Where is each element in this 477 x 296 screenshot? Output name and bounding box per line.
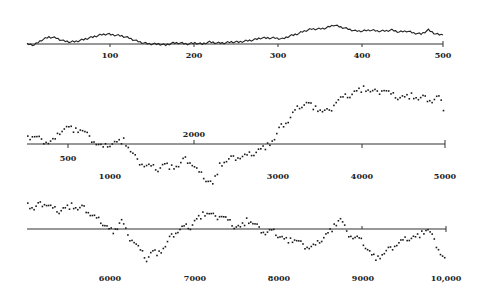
data-point xyxy=(150,252,152,254)
data-point xyxy=(253,155,255,157)
data-point xyxy=(106,225,108,227)
data-point xyxy=(267,231,269,233)
data-point xyxy=(152,250,154,252)
data-point xyxy=(171,233,173,235)
data-point xyxy=(273,229,275,231)
data-point xyxy=(165,246,167,248)
data-point xyxy=(438,249,440,251)
data-point xyxy=(377,90,379,92)
data-point xyxy=(169,168,171,170)
data-point xyxy=(176,166,178,168)
data-point xyxy=(315,244,317,246)
data-point xyxy=(254,223,256,225)
data-point xyxy=(313,109,315,111)
data-point xyxy=(105,143,107,145)
data-point xyxy=(155,169,157,171)
data-point xyxy=(198,171,200,173)
tick-label: 300 xyxy=(270,50,287,60)
data-point xyxy=(221,165,223,167)
data-point xyxy=(429,100,431,102)
data-point xyxy=(271,140,273,142)
data-point xyxy=(44,204,46,206)
data-point xyxy=(356,236,358,238)
data-point xyxy=(283,126,285,128)
data-point xyxy=(342,96,344,98)
data-point xyxy=(323,237,325,239)
data-point xyxy=(260,148,262,150)
data-point xyxy=(386,250,388,252)
data-point xyxy=(373,254,375,256)
data-point xyxy=(27,135,29,137)
data-point xyxy=(112,143,114,145)
data-point xyxy=(206,213,208,215)
data-point xyxy=(261,232,263,234)
tick-label: 400 xyxy=(354,50,371,60)
data-point xyxy=(424,95,426,97)
data-point xyxy=(429,231,431,233)
data-point xyxy=(62,207,64,209)
data-point xyxy=(271,229,273,231)
data-point xyxy=(242,156,244,158)
data-point xyxy=(434,238,436,240)
data-point xyxy=(125,145,127,147)
data-point xyxy=(33,209,35,211)
panel-3: 6000 7000 8000 9000 10,000 xyxy=(27,201,462,283)
tick-label: 200 xyxy=(186,50,203,60)
data-point xyxy=(119,222,121,224)
data-point xyxy=(287,122,289,124)
panel-2-series xyxy=(27,85,444,184)
data-point xyxy=(431,233,433,235)
data-point xyxy=(367,249,369,251)
data-point xyxy=(340,96,342,98)
data-point xyxy=(127,234,129,236)
data-point xyxy=(38,136,40,138)
data-point xyxy=(319,109,321,111)
data-point xyxy=(308,248,310,250)
data-point xyxy=(431,102,433,104)
data-point xyxy=(265,149,267,151)
data-point xyxy=(306,102,308,104)
data-point xyxy=(400,239,402,241)
data-point xyxy=(157,171,159,173)
data-point xyxy=(404,236,406,238)
data-point xyxy=(110,227,112,229)
data-point xyxy=(93,141,95,143)
data-point xyxy=(35,205,37,207)
data-point xyxy=(304,248,306,250)
data-point xyxy=(249,151,251,153)
data-point xyxy=(187,162,189,164)
data-point xyxy=(107,146,109,148)
data-point xyxy=(210,180,212,182)
data-point xyxy=(132,152,134,154)
data-point xyxy=(178,166,180,168)
data-point xyxy=(198,215,200,217)
data-point xyxy=(173,168,175,170)
data-point xyxy=(188,228,190,230)
data-point xyxy=(207,181,209,183)
data-point xyxy=(286,237,288,239)
data-point xyxy=(423,233,425,235)
tick-label: 7000 xyxy=(184,273,207,283)
data-point xyxy=(166,163,168,165)
data-point xyxy=(340,218,342,220)
data-point xyxy=(329,228,331,230)
data-point xyxy=(351,94,353,96)
data-point xyxy=(352,238,354,240)
data-point xyxy=(235,159,237,161)
tick-label: 10,000 xyxy=(431,273,462,283)
data-point xyxy=(294,109,296,111)
data-point xyxy=(182,158,184,160)
data-point xyxy=(228,158,230,160)
data-point xyxy=(308,102,310,104)
data-point xyxy=(365,248,367,250)
data-point xyxy=(154,249,156,251)
data-point xyxy=(96,217,98,219)
tick-label: 100 xyxy=(102,50,119,60)
data-point xyxy=(370,91,372,93)
data-point xyxy=(358,88,360,90)
data-point xyxy=(192,224,194,226)
data-point xyxy=(133,242,135,244)
data-point xyxy=(240,226,242,228)
data-point xyxy=(65,207,67,209)
data-point xyxy=(121,143,123,145)
